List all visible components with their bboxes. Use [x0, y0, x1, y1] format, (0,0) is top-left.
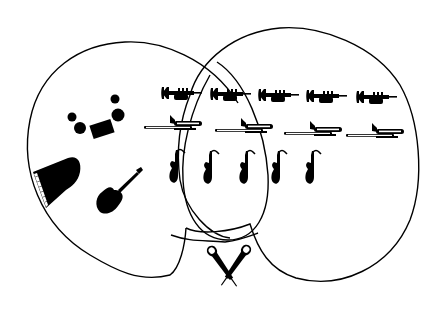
- left-region-outline: [28, 42, 239, 278]
- trumpet-icon: [161, 87, 202, 100]
- saxophone-icon: [239, 151, 255, 184]
- crossed-microphones-icon: [205, 243, 254, 289]
- saxophone-icon: [271, 151, 287, 184]
- trombone-icon: [346, 123, 404, 138]
- trumpet-icon: [258, 89, 299, 102]
- trombone-icon: [215, 118, 273, 133]
- saxophone-icon: [305, 151, 321, 184]
- drum-kit-icon: [68, 95, 125, 140]
- acoustic-guitar-icon: [96, 167, 143, 214]
- trumpet-icon: [306, 90, 347, 103]
- diagram-canvas: [0, 0, 440, 312]
- trombone-icon: [284, 121, 342, 136]
- trombone-icon: [144, 115, 202, 130]
- inner-oval-outline: [183, 62, 268, 240]
- saxophone-icon: [203, 151, 219, 184]
- right-region-outline: [178, 28, 418, 282]
- instrument-diagram: [0, 0, 440, 312]
- trumpet-icon: [356, 91, 397, 104]
- trumpet-icon: [210, 88, 251, 101]
- saxophone-row: [169, 150, 321, 184]
